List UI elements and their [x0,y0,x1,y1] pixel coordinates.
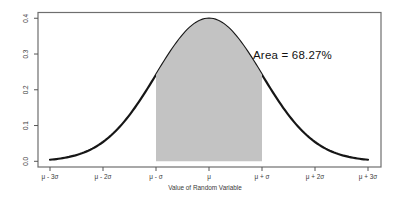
x-tick-label: μ - 3σ [42,173,59,181]
area-annotation: Area = 68.27% [253,49,332,61]
y-tick-label: 0.4 [23,13,30,22]
y-tick-label: 0.2 [23,85,30,94]
x-tick-label: μ - 2σ [95,173,112,181]
x-tick-label: μ + σ [255,173,270,181]
y-tick-label: 0.0 [23,156,30,165]
normal-distribution-chart: μ - 3σμ - 2σμ - σμμ + σμ + 2σμ + 3σ0.00.… [0,0,397,202]
x-tick-label: μ + 2σ [306,173,325,181]
x-tick-label: μ - σ [149,173,162,181]
x-tick-label: μ [207,173,211,181]
shaded-area [156,19,262,162]
y-tick-label: 0.3 [23,49,30,58]
x-axis-title: Value of Random Variable [13,184,397,191]
plot-svg: μ - 3σμ - 2σμ - σμμ + σμ + 2σμ + 3σ0.00.… [0,0,397,202]
y-tick-label: 0.1 [23,121,30,130]
x-tick-label: μ + 3σ [359,173,378,181]
